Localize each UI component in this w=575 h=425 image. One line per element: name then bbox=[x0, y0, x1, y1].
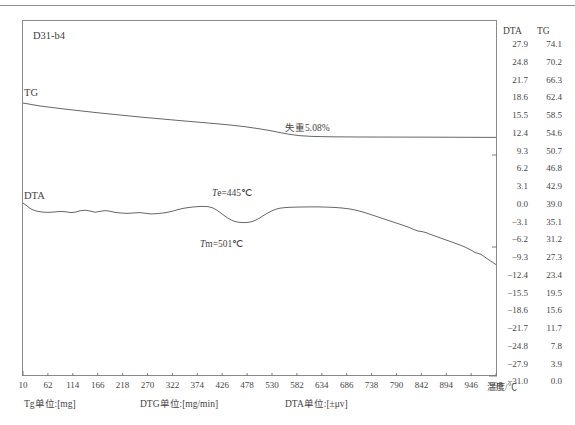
tg-column-header: TG bbox=[537, 26, 550, 36]
tg-value: 31.2 bbox=[534, 234, 562, 244]
tg-value: 58.5 bbox=[534, 110, 562, 120]
dta-column-header: DTA bbox=[503, 26, 522, 36]
tg-value: 27.3 bbox=[534, 252, 562, 262]
dta-value: 9.3 bbox=[500, 146, 528, 156]
dta-value: −27.9 bbox=[500, 359, 528, 369]
dta-value: −24.8 bbox=[500, 341, 528, 351]
right-axis-ticks bbox=[489, 155, 497, 376]
tg-value: 23.4 bbox=[534, 270, 562, 280]
peak-temperature-annotation: Tm=501℃ bbox=[200, 240, 243, 250]
x-axis-ticks bbox=[23, 371, 496, 376]
onset-temperature-annotation: Te=445℃ bbox=[212, 189, 252, 199]
tg-unit-label: Tg单位:[mg] bbox=[24, 396, 76, 410]
dta-value: 0.0 bbox=[500, 199, 528, 209]
tg-value: 42.9 bbox=[534, 181, 562, 191]
tg-value: 7.8 bbox=[534, 341, 562, 351]
peak-value: m=501℃ bbox=[205, 239, 243, 249]
x-axis-title: 温度/℃ bbox=[487, 380, 517, 393]
weight-loss-annotation: 失重5.08% bbox=[285, 124, 330, 134]
thermal-analysis-figure: D31-b4 TG DTA 失重5.08% Te=445℃ Tm=501℃ DT… bbox=[0, 0, 575, 425]
tg-value: 74.1 bbox=[534, 39, 562, 49]
dta-value: −18.6 bbox=[500, 305, 528, 315]
dta-value: −6.2 bbox=[500, 234, 528, 244]
dta-curve-label: DTA bbox=[24, 191, 45, 202]
dta-value: −3.1 bbox=[500, 217, 528, 227]
onset-value: e=445℃ bbox=[217, 188, 252, 198]
tg-curve bbox=[23, 103, 496, 137]
dta-value: 12.4 bbox=[500, 128, 528, 138]
dtg-unit-label: DTG单位:[mg/min] bbox=[140, 396, 218, 410]
tg-value: 3.9 bbox=[534, 359, 562, 369]
tg-value: 50.7 bbox=[534, 146, 562, 156]
tg-value: 19.5 bbox=[534, 288, 562, 298]
tg-value: 54.6 bbox=[534, 128, 562, 138]
dta-value: 3.1 bbox=[500, 181, 528, 191]
dta-value: −21.7 bbox=[500, 323, 528, 333]
tg-value: 70.2 bbox=[534, 57, 562, 67]
dta-value: 18.6 bbox=[500, 92, 528, 102]
tg-curve-label: TG bbox=[24, 88, 38, 99]
tg-value: 39.0 bbox=[534, 199, 562, 209]
dta-value: 21.7 bbox=[500, 75, 528, 85]
dta-value: −9.3 bbox=[500, 252, 528, 262]
sample-id-label: D31-b4 bbox=[33, 31, 65, 42]
tg-value: 0.0 bbox=[534, 376, 562, 386]
dta-value: 27.9 bbox=[500, 39, 528, 49]
tg-value: 35.1 bbox=[534, 217, 562, 227]
dta-value: 6.2 bbox=[500, 163, 528, 173]
tg-value: 11.7 bbox=[534, 323, 562, 333]
dta-unit-label: DTA单位:[±μv] bbox=[285, 396, 348, 410]
dta-value: 24.8 bbox=[500, 57, 528, 67]
dta-value: 15.5 bbox=[500, 110, 528, 120]
tg-value: 66.3 bbox=[534, 75, 562, 85]
tg-value: 46.8 bbox=[534, 163, 562, 173]
tg-value: 15.6 bbox=[534, 305, 562, 315]
curves-layer bbox=[0, 0, 575, 425]
dta-curve bbox=[23, 203, 496, 265]
dta-value: −12.4 bbox=[500, 270, 528, 280]
tg-value: 62.4 bbox=[534, 92, 562, 102]
dta-value: −15.5 bbox=[500, 288, 528, 298]
